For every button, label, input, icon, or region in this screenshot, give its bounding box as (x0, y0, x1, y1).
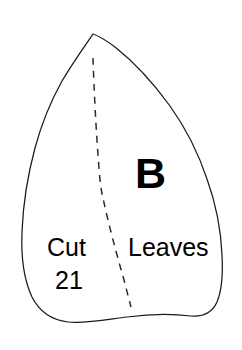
cut-quantity-label: 21 (55, 266, 83, 294)
pattern-canvas: B Cut 21 Leaves (0, 0, 242, 350)
leaf-pattern-drawing: B Cut 21 Leaves (0, 0, 242, 350)
piece-letter-label: B (135, 149, 166, 197)
piece-name-label: Leaves (128, 233, 209, 261)
cut-instruction-label: Cut (47, 233, 86, 261)
leaf-outline-shape (22, 34, 223, 323)
